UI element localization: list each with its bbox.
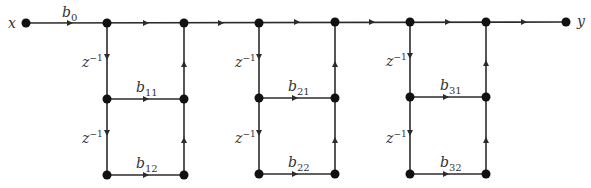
- node: [331, 94, 340, 103]
- coeff-label-b31: b31: [440, 77, 462, 96]
- arrow-up-icon: [181, 61, 187, 67]
- delay-label: z−1: [385, 52, 407, 69]
- arrow-down-icon: [407, 53, 413, 59]
- node: [482, 18, 491, 27]
- arrow-up-icon: [483, 60, 489, 66]
- arrow-down-icon: [256, 130, 262, 136]
- arrow-down-icon: [104, 130, 110, 136]
- node: [331, 170, 340, 179]
- delay-label: z−1: [234, 129, 256, 146]
- section-2: z−1 z−1 b21 b22: [218, 18, 340, 179]
- coeff-label-b12: b12: [136, 155, 158, 174]
- section-3: z−1 z−1 b31 b32: [369, 18, 527, 179]
- arrow-right-icon: [369, 19, 375, 25]
- arrow-down-icon: [407, 130, 413, 136]
- coeff-label-b32: b32: [440, 154, 462, 173]
- node: [406, 18, 415, 27]
- input-node: [22, 19, 31, 28]
- arrow-down-icon: [104, 54, 110, 60]
- output-node: [562, 18, 571, 27]
- coeff-label-b22: b22: [288, 154, 310, 173]
- output-label: y: [576, 13, 586, 29]
- node: [103, 95, 112, 104]
- node: [180, 19, 189, 28]
- coeff-label-b11: b11: [136, 79, 158, 98]
- delay-label: z−1: [234, 53, 256, 70]
- delay-label: z−1: [81, 129, 103, 146]
- arrow-right-icon: [143, 20, 149, 26]
- node: [331, 18, 340, 27]
- node: [406, 93, 415, 102]
- arrow-down-icon: [256, 54, 262, 60]
- arrow-right-icon: [521, 19, 527, 25]
- arrow-up-icon: [181, 137, 187, 143]
- gain-b0-label: b0: [62, 4, 77, 23]
- signal-flow-diagram: x b0 y z−1 z−1 b11 b12: [0, 0, 591, 188]
- node: [406, 170, 415, 179]
- node: [103, 19, 112, 28]
- node: [255, 170, 264, 179]
- arrow-right-icon: [445, 19, 451, 25]
- delay-label: z−1: [81, 53, 103, 70]
- node: [180, 95, 189, 104]
- arrow-right-icon: [218, 20, 224, 26]
- arrow-up-icon: [332, 137, 338, 143]
- node: [482, 170, 491, 179]
- section-1: z−1 z−1 b11 b12: [81, 19, 189, 180]
- arrow-right-icon: [294, 19, 300, 25]
- arrow-up-icon: [483, 137, 489, 143]
- node: [103, 171, 112, 180]
- input-label: x: [8, 15, 16, 31]
- node: [482, 93, 491, 102]
- node: [255, 94, 264, 103]
- coeff-label-b21: b21: [288, 78, 310, 97]
- delay-label: z−1: [385, 129, 407, 146]
- node: [180, 171, 189, 180]
- node: [255, 19, 264, 28]
- arrow-up-icon: [332, 61, 338, 67]
